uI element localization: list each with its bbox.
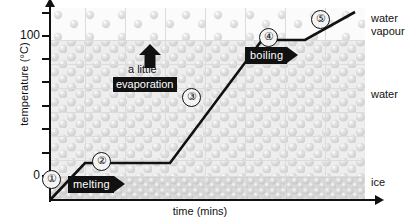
gridline-vertical [165, 8, 166, 200]
y-axis-tick [42, 152, 50, 154]
gridline-horizontal [50, 112, 365, 113]
melting-banner-label: melting [68, 176, 114, 193]
state-label-water-vapour-line1: water [371, 12, 405, 25]
gridline-horizontal [50, 88, 365, 89]
diagram-canvas: 100 0 temperature (°C) time (mins) ① ② ③… [0, 0, 408, 224]
gridline-vertical [205, 8, 206, 200]
state-label-ice: ice [371, 176, 385, 189]
x-axis-arrowhead-icon [375, 195, 384, 205]
stage-marker-5: ⑤ [311, 10, 330, 29]
stage-marker-4: ④ [259, 28, 278, 47]
x-axis-line [49, 199, 377, 201]
gridline-horizontal [50, 136, 365, 137]
y-axis-tick [42, 81, 50, 83]
particle-texture [50, 8, 365, 200]
melting-banner: melting [68, 176, 125, 193]
y-axis-title: temperature (°C) [18, 14, 30, 154]
y-axis-tick-100 [42, 35, 50, 37]
gridline-vertical [325, 8, 326, 200]
y-axis-tick [42, 128, 50, 130]
y-axis-tick [42, 12, 50, 14]
stage-marker-1: ① [42, 170, 61, 189]
boiling-banner: boiling [245, 47, 298, 64]
stage-marker-2: ② [92, 152, 111, 171]
gridline-vertical [285, 8, 286, 200]
boiling-banner-label: boiling [245, 47, 287, 64]
y-axis-tick [42, 58, 50, 60]
state-label-water: water [371, 88, 398, 101]
y-axis-label-0: 0 [6, 168, 40, 182]
y-axis-arrowhead-icon [45, 0, 55, 7]
plot-area [50, 8, 365, 200]
gridline-vertical [125, 8, 126, 200]
evaporation-caption-line1: a little [128, 63, 157, 75]
x-axis-title: time (mins) [120, 205, 280, 217]
y-axis-tick [42, 105, 50, 107]
gridline-horizontal [50, 40, 365, 41]
evaporation-caption-line2: evaporation [113, 77, 177, 92]
gridline-vertical [85, 8, 86, 200]
gridline-horizontal [50, 64, 365, 65]
stage-marker-3: ③ [182, 88, 201, 107]
boiling-arrow-icon [287, 47, 298, 63]
melting-arrow-icon [114, 176, 125, 192]
state-label-water-vapour-line2: vapour [371, 25, 405, 38]
state-label-water-vapour: water vapour [371, 12, 405, 37]
gridline-vertical [245, 8, 246, 200]
